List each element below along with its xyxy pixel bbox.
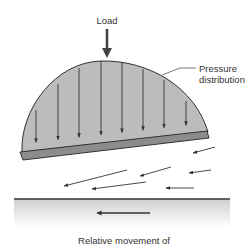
bearing-diagram: Load Pressure distribution Relative move… — [0, 0, 248, 247]
flow-arrow — [140, 167, 171, 176]
relative-movement-label: Relative movement of — [78, 235, 170, 246]
flow-arrow — [193, 147, 215, 153]
pressure-label-line1: Pressure — [199, 63, 237, 74]
flow-arrow — [189, 170, 211, 173]
load-label: Load — [96, 15, 117, 26]
pressure-label-line2: distribution — [199, 74, 245, 85]
lubricant-flow-arrows — [64, 147, 215, 189]
flow-arrow — [92, 182, 146, 189]
load-arrow-icon — [102, 29, 112, 58]
flow-arrow — [64, 170, 127, 186]
pressure-leader-line — [162, 68, 196, 75]
